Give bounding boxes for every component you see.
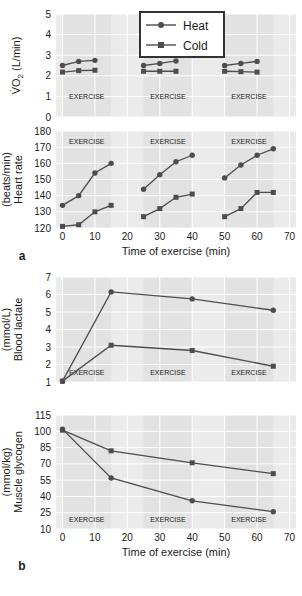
exercise-band-label-2-heart_rate: EXERCISE bbox=[150, 138, 186, 145]
ytick-label-7-muscle_glycogen: 115 bbox=[35, 410, 51, 421]
datapoint-cold-0-vo2 bbox=[60, 70, 65, 75]
datapoint-heat-10-heart_rate bbox=[254, 153, 259, 158]
exercise-band-3-vo2 bbox=[225, 14, 274, 117]
datapoint-cold-1-vo2 bbox=[76, 68, 81, 73]
datapoint-heat-9-heart_rate bbox=[238, 162, 243, 167]
ylabel-vo2-units: (L/min) bbox=[10, 37, 22, 74]
ytick-label-4-blood_lactate: 5 bbox=[45, 307, 51, 318]
ytick-label-4-heart_rate: 160 bbox=[34, 158, 51, 169]
ytick-label-0-heart_rate: 120 bbox=[34, 223, 51, 234]
ytick-label-0-muscle_glycogen: 10 bbox=[40, 524, 52, 535]
datapoint-cold-0-heart_rate bbox=[60, 224, 65, 229]
xtick-label-0-heart_rate: 0 bbox=[60, 231, 66, 242]
legend-label-cold: Cold bbox=[183, 39, 208, 53]
datapoint-heat-3-blood_lactate bbox=[271, 308, 276, 313]
ytick-label-2-vo2: 2 bbox=[45, 70, 51, 81]
datapoint-cold-7-vo2 bbox=[238, 69, 243, 74]
exercise-band-label-3-blood_lactate: EXERCISE bbox=[231, 369, 267, 376]
datapoint-heat-0-vo2 bbox=[60, 63, 65, 68]
panel-blood_lactate: EXERCISEEXERCISEEXERCISE1234567Blood lac… bbox=[0, 272, 296, 388]
datapoint-heat-6-vo2 bbox=[222, 63, 227, 68]
exercise-band-label-1-heart_rate: EXERCISE bbox=[69, 138, 105, 145]
ytick-label-0-vo2: 0 bbox=[45, 112, 51, 123]
exercise-band-1-muscle_glycogen bbox=[62, 415, 111, 529]
datapoint-cold-1-muscle_glycogen bbox=[109, 448, 114, 453]
datapoint-cold-2-blood_lactate bbox=[190, 348, 195, 353]
ylabel-muscle_glycogen-line2: (mmol/kg) bbox=[0, 448, 12, 497]
datapoint-heat-6-heart_rate bbox=[173, 159, 178, 164]
ytick-label-4-muscle_glycogen: 70 bbox=[40, 458, 52, 469]
datapoint-cold-5-heart_rate bbox=[157, 206, 162, 211]
datapoint-cold-1-blood_lactate bbox=[109, 343, 114, 348]
ytick-label-5-vo2: 5 bbox=[45, 9, 51, 20]
ylabel-blood_lactate-line1: Blood lactate bbox=[12, 298, 24, 362]
datapoint-heat-2-blood_lactate bbox=[190, 296, 195, 301]
exercise-band-label-3-muscle_glycogen: EXERCISE bbox=[231, 516, 267, 523]
datapoint-heat-3-vo2 bbox=[141, 63, 146, 68]
exercise-band-label-2-vo2: EXERCISE bbox=[150, 93, 186, 100]
panel-heart_rate: EXERCISEEXERCISEEXERCISE1201301401501601… bbox=[0, 126, 296, 257]
datapoint-cold-1-heart_rate bbox=[76, 222, 81, 227]
datapoint-cold-5-vo2 bbox=[174, 69, 179, 74]
datapoint-cold-7-heart_rate bbox=[190, 192, 195, 197]
exercise-band-label-2-muscle_glycogen: EXERCISE bbox=[150, 516, 186, 523]
xtick-label-4-heart_rate: 40 bbox=[187, 231, 199, 242]
ytick-label-2-muscle_glycogen: 40 bbox=[40, 491, 52, 502]
exercise-band-label-1-vo2: EXERCISE bbox=[69, 93, 105, 100]
datapoint-heat-4-vo2 bbox=[157, 61, 162, 66]
ytick-label-6-heart_rate: 180 bbox=[34, 126, 51, 137]
legend: HeatCold bbox=[140, 12, 224, 57]
ylabel-heart_rate-line1: Heart rate bbox=[12, 155, 24, 204]
ytick-label-5-heart_rate: 170 bbox=[34, 142, 51, 153]
xtick-label-2-heart_rate: 20 bbox=[122, 231, 134, 242]
datapoint-cold-3-vo2 bbox=[141, 69, 146, 74]
xtick-label-5-muscle_glycogen: 50 bbox=[219, 532, 231, 543]
xtick-label-6-heart_rate: 60 bbox=[252, 231, 264, 242]
ytick-label-1-vo2: 1 bbox=[45, 91, 51, 102]
panel-letter-b: b bbox=[18, 559, 25, 573]
datapoint-cold-9-heart_rate bbox=[238, 206, 243, 211]
datapoint-heat-7-vo2 bbox=[238, 61, 243, 66]
datapoint-heat-5-vo2 bbox=[173, 58, 178, 63]
datapoint-cold-3-heart_rate bbox=[109, 203, 114, 208]
ylabel-muscle_glycogen-line1: Muscle glycogen bbox=[12, 431, 24, 513]
ytick-label-0-blood_lactate: 1 bbox=[45, 377, 51, 388]
legend-box bbox=[140, 12, 224, 57]
datapoint-heat-2-heart_rate bbox=[92, 170, 97, 175]
datapoint-cold-11-heart_rate bbox=[271, 190, 276, 195]
datapoint-heat-0-heart_rate bbox=[60, 203, 65, 208]
datapoint-heat-1-heart_rate bbox=[76, 193, 81, 198]
datapoint-heat-5-heart_rate bbox=[157, 172, 162, 177]
ytick-label-6-muscle_glycogen: 100 bbox=[34, 426, 51, 437]
datapoint-cold-2-vo2 bbox=[92, 68, 97, 73]
datapoint-cold-8-vo2 bbox=[255, 70, 260, 75]
panel-muscle_glycogen: EXERCISEEXERCISEEXERCISE1025405570851001… bbox=[0, 410, 296, 558]
ytick-label-6-blood_lactate: 7 bbox=[45, 272, 51, 283]
datapoint-cold-4-vo2 bbox=[157, 69, 162, 74]
xtick-label-7-muscle_glycogen: 70 bbox=[284, 532, 296, 543]
ytick-label-3-heart_rate: 150 bbox=[34, 174, 51, 185]
ytick-label-5-blood_lactate: 6 bbox=[45, 289, 51, 300]
xlabel-heart_rate: Time of exercise (min) bbox=[122, 245, 230, 257]
datapoint-heat-3-heart_rate bbox=[108, 161, 113, 166]
ylabel-vo2: V̇O2 (L/min) bbox=[10, 37, 25, 95]
xtick-label-4-muscle_glycogen: 40 bbox=[187, 532, 199, 543]
datapoint-heat-1-vo2 bbox=[76, 59, 81, 64]
xtick-label-1-heart_rate: 10 bbox=[89, 231, 101, 242]
datapoint-heat-8-vo2 bbox=[254, 59, 259, 64]
datapoint-cold-3-muscle_glycogen bbox=[271, 471, 276, 476]
datapoint-cold-2-heart_rate bbox=[92, 209, 97, 214]
datapoint-heat-1-muscle_glycogen bbox=[108, 475, 113, 480]
exercise-band-label-3-vo2: EXERCISE bbox=[231, 93, 267, 100]
datapoint-cold-0-muscle_glycogen bbox=[60, 428, 65, 433]
datapoint-cold-10-heart_rate bbox=[255, 190, 260, 195]
ytick-label-2-blood_lactate: 3 bbox=[45, 342, 51, 353]
xtick-label-6-muscle_glycogen: 60 bbox=[252, 532, 264, 543]
datapoint-cold-6-heart_rate bbox=[174, 195, 179, 200]
xtick-label-3-muscle_glycogen: 30 bbox=[154, 532, 166, 543]
datapoint-heat-2-muscle_glycogen bbox=[190, 498, 195, 503]
legend-marker-heat bbox=[158, 22, 164, 28]
xtick-label-2-muscle_glycogen: 20 bbox=[122, 532, 134, 543]
ylabel-vo2-vdot: V̇O bbox=[10, 78, 22, 94]
ytick-label-1-blood_lactate: 2 bbox=[45, 359, 51, 370]
